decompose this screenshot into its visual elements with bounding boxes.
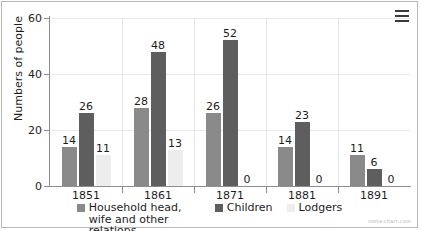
bar[interactable]: 11 (350, 155, 365, 186)
bar-slot: 28 (134, 18, 149, 186)
x-tick-label: 1861 (122, 190, 194, 201)
legend-item[interactable]: Household head, wife and other relations (77, 202, 201, 231)
bar-value-label: 26 (79, 101, 93, 112)
category-separator (266, 18, 267, 186)
y-axis-tick-labels: 0204060 (2, 2, 42, 231)
bar[interactable]: 26 (79, 113, 94, 186)
bar-group: 26520 (194, 18, 266, 186)
bar-value-label: 6 (371, 157, 378, 168)
bar-group: 284813 (122, 18, 194, 186)
plot-area: 14261128481326520142301160 (50, 18, 410, 186)
bar[interactable]: 11 (96, 155, 111, 186)
bar-slot: 52 (223, 18, 238, 186)
bar-value-label: 28 (134, 96, 148, 107)
bar-slot: 23 (295, 18, 310, 186)
chart-container: Numbers of people 0204060 14261128481326… (1, 1, 418, 228)
bar-slot: 26 (79, 18, 94, 186)
menu-line-1 (395, 10, 409, 12)
legend-swatch (287, 204, 295, 212)
watermark: meta-chart.com (368, 218, 411, 224)
category-separator (338, 18, 339, 186)
bar-value-label: 26 (206, 101, 220, 112)
bar-value-label: 14 (278, 135, 292, 146)
bar-group: 14230 (266, 18, 338, 186)
bar[interactable]: 23 (295, 122, 310, 186)
x-tick-mark (122, 186, 123, 193)
bar-value-label: 11 (350, 143, 364, 154)
bar[interactable]: 28 (134, 108, 149, 186)
x-tick-mark (194, 186, 195, 193)
legend-label: Lodgers (299, 202, 343, 214)
legend-swatch (77, 204, 85, 212)
bar[interactable]: 14 (62, 147, 77, 186)
bar[interactable]: 52 (223, 40, 238, 186)
bar-slot: 14 (62, 18, 77, 186)
bar-slot: 0 (384, 18, 399, 186)
x-tick-mark (338, 186, 339, 193)
bar-slot: 6 (367, 18, 382, 186)
bar-value-label: 11 (96, 143, 110, 154)
bar-value-label: 0 (244, 174, 251, 185)
bar-value-label: 13 (168, 138, 182, 149)
y-tick-label: 60 (4, 13, 42, 24)
category-separator (122, 18, 123, 186)
y-tick-label: 20 (4, 125, 42, 136)
legend-item[interactable]: Lodgers (287, 202, 343, 214)
bar-slot: 0 (312, 18, 327, 186)
hamburger-menu-icon[interactable] (395, 10, 409, 22)
bar-value-label: 0 (316, 174, 323, 185)
y-tick-label: 0 (4, 181, 42, 192)
bar-slot: 11 (96, 18, 111, 186)
legend-item[interactable]: Children (215, 202, 273, 214)
x-tick-label: 1871 (194, 190, 266, 201)
bar-slot: 26 (206, 18, 221, 186)
legend-label: Children (227, 202, 273, 214)
x-axis-line (44, 186, 411, 187)
y-tick-mark (44, 74, 50, 75)
category-separator (194, 18, 195, 186)
menu-line-2 (395, 15, 409, 17)
bar-slot: 48 (151, 18, 166, 186)
bar-group: 1160 (338, 18, 410, 186)
chart-legend: Household head, wife and other relations… (2, 202, 417, 231)
y-tick-mark (44, 186, 50, 187)
bar-value-label: 52 (223, 28, 237, 39)
bar-value-label: 14 (62, 135, 76, 146)
x-tick-label: 1851 (50, 190, 122, 201)
y-tick-mark (44, 18, 50, 19)
bar-slot: 0 (240, 18, 255, 186)
bar[interactable]: 14 (278, 147, 293, 186)
bar-group: 142611 (50, 18, 122, 186)
legend-label: Household head, wife and other relations (89, 202, 201, 231)
y-tick-mark (44, 130, 50, 131)
x-tick-label: 1891 (338, 190, 410, 201)
bar-value-label: 48 (151, 40, 165, 51)
x-tick-mark (266, 186, 267, 193)
bar-value-label: 0 (388, 174, 395, 185)
bar[interactable]: 26 (206, 113, 221, 186)
bar-value-label: 23 (295, 110, 309, 121)
menu-line-3 (395, 20, 409, 22)
x-tick-label: 1881 (266, 190, 338, 201)
legend-swatch (215, 204, 223, 212)
bar[interactable]: 48 (151, 52, 166, 186)
bar-slot: 13 (168, 18, 183, 186)
bar-slot: 11 (350, 18, 365, 186)
bar-slot: 14 (278, 18, 293, 186)
bar[interactable]: 6 (367, 169, 382, 186)
y-tick-label: 40 (4, 69, 42, 80)
bar[interactable]: 13 (168, 150, 183, 186)
